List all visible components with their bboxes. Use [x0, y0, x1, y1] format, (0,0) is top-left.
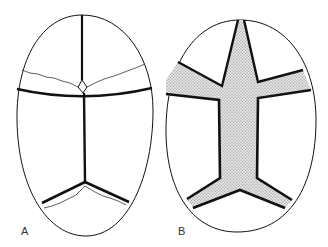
diagram-canvas	[0, 0, 328, 247]
panel-a-skull	[17, 15, 153, 236]
panel-b-label: B	[178, 225, 185, 237]
panel-a-label: A	[21, 225, 28, 237]
panel-b-skull	[166, 20, 316, 232]
